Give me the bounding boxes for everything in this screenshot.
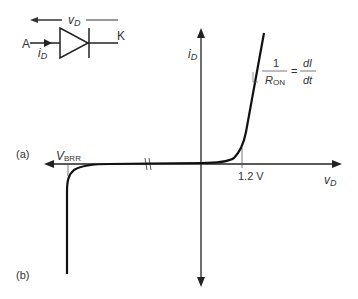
svg-text:=: = — [291, 65, 297, 77]
x-axis-label: vD — [324, 173, 337, 188]
x-axis-arrow-icon — [332, 160, 342, 168]
panel-label-b: (b) — [16, 269, 29, 281]
svg-text:dI: dI — [303, 57, 312, 69]
svg-text:1: 1 — [273, 57, 279, 69]
svg-text:dt: dt — [303, 74, 313, 86]
diode-diagram: vD A iD K iD vD 1.2 V VBRR (a) (b) 1 RON… — [0, 0, 358, 299]
panel-label-a: (a) — [16, 148, 29, 160]
iv-curve — [67, 33, 264, 274]
voltage-label: vD — [68, 13, 81, 28]
x-tick-label: 1.2 V — [238, 170, 264, 182]
voltage-arrow-icon — [30, 17, 38, 23]
x-axis-left-arrow-icon — [44, 160, 54, 168]
y-axis-down-arrow-icon — [197, 277, 205, 287]
slope-annotation: 1 RON = dI dt — [262, 57, 316, 87]
y-axis-label: iD — [188, 47, 198, 62]
current-arrow-icon — [44, 39, 52, 47]
diode-triangle-icon — [60, 28, 88, 58]
current-label: iD — [38, 46, 48, 61]
anode-label: A — [22, 37, 30, 51]
breakdown-label: VBRR — [56, 149, 81, 163]
cathode-label: K — [117, 29, 125, 43]
y-axis-arrow-icon — [197, 28, 205, 38]
svg-text:RON: RON — [265, 74, 285, 87]
